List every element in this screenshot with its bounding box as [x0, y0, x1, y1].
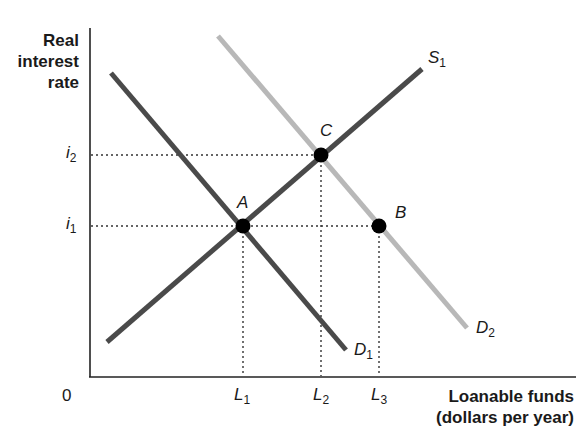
tick-subscript: 2 — [70, 151, 77, 165]
supply-curve-s1 — [107, 69, 422, 342]
guide-lines — [91, 155, 379, 376]
point-label-b: B — [395, 203, 406, 223]
y-axis-title: Real interest rate — [0, 30, 79, 93]
origin-label: 0 — [62, 386, 71, 406]
point-a — [236, 219, 251, 234]
curve-subscript: 2 — [488, 326, 495, 340]
tick-subscript: 2 — [322, 393, 329, 407]
y-axis-title-line: interest — [0, 51, 79, 72]
x-axis-title-line: Loanable funds — [436, 386, 574, 407]
loanable-funds-graph — [0, 0, 582, 447]
curve-symbol: D — [354, 340, 366, 359]
curve-subscript: 1 — [439, 56, 446, 70]
y-tick-i1: i1 — [66, 214, 76, 236]
point-label-c: C — [320, 121, 332, 141]
tick-subscript: 1 — [70, 222, 77, 236]
curve-label-d1: D1 — [354, 340, 373, 362]
y-axis-title-line: rate — [0, 72, 79, 93]
demand-curve-d2 — [218, 36, 467, 328]
point-c — [314, 148, 329, 163]
curve-label-d2: D2 — [476, 318, 495, 340]
curve-label-s1: S1 — [428, 48, 446, 70]
curve-subscript: 1 — [366, 348, 373, 362]
tick-subscript: 3 — [380, 393, 387, 407]
point-label-a: A — [237, 193, 248, 213]
y-axis-title-line: Real — [0, 30, 79, 51]
point-b — [372, 219, 387, 234]
curve-symbol: D — [476, 318, 488, 337]
curve-symbol: S — [428, 48, 439, 67]
x-tick-l1: L1 — [234, 385, 250, 407]
x-tick-l3: L3 — [371, 385, 387, 407]
x-axis-title: Loanable funds (dollars per year) — [436, 386, 574, 428]
x-axis-title-line: (dollars per year) — [436, 407, 574, 428]
x-tick-l2: L2 — [313, 385, 329, 407]
tick-subscript: 1 — [243, 393, 250, 407]
y-tick-i2: i2 — [66, 143, 76, 165]
